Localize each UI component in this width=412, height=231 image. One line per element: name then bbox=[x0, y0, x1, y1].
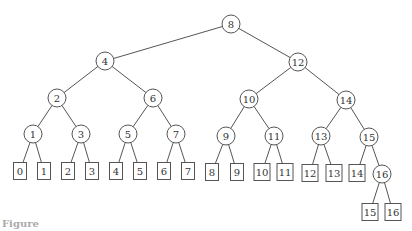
node-label: 15 bbox=[363, 132, 376, 143]
tree-edge bbox=[324, 144, 331, 164]
tree-edge bbox=[239, 28, 290, 57]
leaf-node-9: 9 bbox=[231, 164, 244, 181]
node-label: 5 bbox=[137, 166, 143, 177]
tree-edge bbox=[133, 105, 148, 126]
leaf-node-8: 8 bbox=[206, 164, 219, 181]
node-label: 10 bbox=[256, 167, 269, 178]
node-label: 12 bbox=[292, 57, 305, 68]
node-label: 11 bbox=[279, 167, 292, 178]
figure-caption: Figure bbox=[2, 218, 39, 229]
node-label: 13 bbox=[328, 168, 341, 179]
leaf-node-10: 10 bbox=[254, 164, 270, 181]
leaf-node-16: 16 bbox=[385, 204, 401, 221]
leaf-node-15: 15 bbox=[362, 204, 378, 221]
node-label: 5 bbox=[125, 129, 131, 140]
node-label: 16 bbox=[376, 169, 389, 180]
tree-edge bbox=[265, 145, 271, 164]
node-label: 14 bbox=[340, 95, 353, 106]
tree-nodes: 8412261014135791113151601234567891011121… bbox=[14, 15, 402, 221]
tree-edge bbox=[372, 145, 379, 165]
internal-node-13: 13 bbox=[312, 127, 330, 145]
leaf-node-11: 11 bbox=[277, 164, 293, 181]
internal-node-16: 16 bbox=[373, 165, 391, 183]
node-label: 13 bbox=[315, 131, 328, 142]
node-label: 14 bbox=[351, 168, 364, 179]
node-label: 10 bbox=[243, 94, 256, 105]
tree-edge bbox=[229, 145, 235, 164]
node-label: 4 bbox=[113, 166, 119, 177]
node-label: 9 bbox=[223, 131, 229, 142]
tree-edge bbox=[62, 105, 76, 126]
tree-edge bbox=[38, 105, 52, 126]
tree-edge bbox=[23, 142, 30, 162]
node-label: 6 bbox=[161, 166, 167, 177]
node-label: 8 bbox=[209, 167, 215, 178]
tree-edge bbox=[119, 143, 125, 163]
tree-edge bbox=[277, 145, 283, 164]
tree-edge bbox=[326, 107, 341, 128]
tree-edge bbox=[373, 183, 380, 204]
internal-node-9: 9 bbox=[217, 127, 235, 145]
node-label: 11 bbox=[268, 131, 281, 142]
node-label: 4 bbox=[102, 56, 108, 67]
internal-node-12: 12 bbox=[289, 53, 307, 71]
tree-edge bbox=[71, 142, 78, 162]
leaf-node-3: 3 bbox=[86, 163, 99, 180]
binary-tree-diagram: 8412261014135791113151601234567891011121… bbox=[0, 0, 412, 231]
leaf-node-0: 0 bbox=[14, 163, 27, 180]
internal-node-5: 5 bbox=[119, 125, 137, 143]
internal-node-11: 11 bbox=[265, 127, 283, 145]
node-label: 3 bbox=[89, 166, 95, 177]
tree-edge bbox=[351, 108, 364, 130]
internal-node-15: 15 bbox=[360, 128, 378, 146]
tree-edge bbox=[215, 144, 222, 163]
internal-node-7: 7 bbox=[167, 125, 185, 143]
node-label: 0 bbox=[17, 166, 23, 177]
tree-edge bbox=[167, 143, 173, 163]
tree-edge bbox=[131, 143, 137, 163]
tree-edge bbox=[179, 143, 185, 163]
node-label: 2 bbox=[54, 93, 60, 104]
leaf-node-7: 7 bbox=[182, 163, 195, 180]
tree-edge bbox=[313, 145, 319, 165]
tree-edge bbox=[36, 143, 42, 163]
leaf-node-6: 6 bbox=[158, 163, 171, 180]
node-label: 1 bbox=[30, 129, 36, 140]
tree-edge bbox=[305, 68, 339, 95]
node-label: 6 bbox=[150, 93, 156, 104]
internal-node-4: 4 bbox=[96, 52, 114, 70]
internal-node-1: 1 bbox=[24, 125, 42, 143]
node-label: 1 bbox=[41, 166, 47, 177]
tree-edge bbox=[64, 66, 98, 92]
node-label: 7 bbox=[185, 166, 191, 177]
node-label: 12 bbox=[304, 168, 317, 179]
internal-node-8: 8 bbox=[222, 15, 240, 33]
leaf-node-4: 4 bbox=[110, 163, 123, 180]
node-label: 9 bbox=[234, 167, 240, 178]
internal-node-6: 6 bbox=[144, 89, 162, 107]
tree-edge bbox=[112, 66, 146, 92]
tree-edge bbox=[254, 106, 269, 128]
internal-node-3: 3 bbox=[72, 125, 90, 143]
tree-edge bbox=[231, 107, 244, 129]
node-label: 15 bbox=[364, 207, 377, 218]
leaf-node-14: 14 bbox=[349, 165, 365, 182]
leaf-node-5: 5 bbox=[134, 163, 147, 180]
leaf-node-1: 1 bbox=[38, 163, 51, 180]
tree-edge bbox=[385, 183, 391, 204]
tree-edge bbox=[256, 67, 291, 93]
leaf-node-13: 13 bbox=[326, 165, 342, 182]
node-label: 8 bbox=[228, 19, 234, 30]
internal-node-14: 14 bbox=[337, 91, 355, 109]
node-label: 3 bbox=[78, 129, 84, 140]
tree-edge bbox=[114, 27, 223, 59]
internal-node-2: 2 bbox=[48, 89, 66, 107]
tree-edge bbox=[360, 146, 366, 165]
tree-edge bbox=[84, 143, 90, 163]
leaf-node-12: 12 bbox=[302, 165, 318, 182]
node-label: 7 bbox=[173, 129, 179, 140]
node-label: 2 bbox=[65, 166, 71, 177]
leaf-node-2: 2 bbox=[62, 163, 75, 180]
tree-edge bbox=[158, 106, 171, 127]
internal-node-10: 10 bbox=[240, 90, 258, 108]
